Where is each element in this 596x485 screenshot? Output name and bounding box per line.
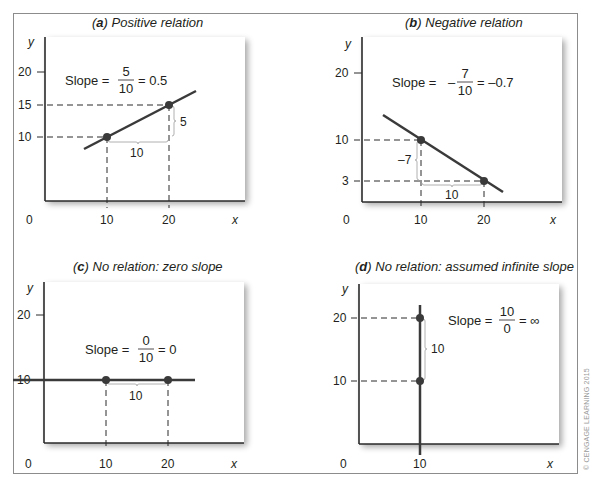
panel-a-title: (a) Positive relation bbox=[92, 15, 203, 30]
svg-text:Slope =: Slope = bbox=[392, 75, 436, 90]
svg-text:= 0: = 0 bbox=[158, 342, 176, 357]
panel-b-point-2 bbox=[480, 177, 488, 185]
panel-d-point-1 bbox=[416, 314, 424, 322]
panel-a-xtick-label: 10 bbox=[100, 213, 114, 227]
panel-a: (a) Positive relation y x 0 20 15 10 10 … bbox=[18, 15, 245, 227]
panel-a-origin: 0 bbox=[26, 213, 33, 227]
panel-c-ytick-label: 20 bbox=[17, 308, 31, 322]
panel-a-x-label: x bbox=[231, 213, 239, 227]
svg-text:10: 10 bbox=[119, 81, 133, 96]
panel-d-origin: 0 bbox=[340, 457, 347, 471]
panel-b-run-label: 10 bbox=[445, 188, 459, 202]
svg-text:Slope =: Slope = bbox=[448, 313, 492, 328]
panel-a-run-label: 10 bbox=[130, 146, 144, 160]
svg-text:0: 0 bbox=[503, 321, 510, 336]
panel-a-rise-label: 5 bbox=[180, 115, 187, 129]
panel-c-run-label: 10 bbox=[129, 389, 143, 403]
panel-a-plot-area bbox=[45, 37, 245, 201]
svg-text:Slope =: Slope = bbox=[65, 73, 109, 88]
svg-text:= 0.5: = 0.5 bbox=[138, 73, 167, 88]
panel-b: (b) Negative relation y x 0 20 10 3 10 2… bbox=[335, 15, 562, 227]
panel-a-point-2 bbox=[165, 101, 173, 109]
panel-c-point-2 bbox=[164, 376, 172, 384]
svg-text:5: 5 bbox=[122, 64, 129, 79]
svg-text:7: 7 bbox=[461, 66, 468, 81]
svg-text:10: 10 bbox=[500, 304, 514, 319]
panel-c-point-1 bbox=[102, 376, 110, 384]
panel-d-plot-area bbox=[359, 284, 559, 444]
panel-d-title: (d) No relation: assumed infinite slope bbox=[355, 259, 574, 274]
panel-c-xtick-label: 20 bbox=[161, 457, 175, 471]
slope-figure: (a) Positive relation y x 0 20 15 10 10 … bbox=[0, 0, 596, 485]
svg-text:= –0.7: = –0.7 bbox=[477, 75, 514, 90]
panel-c-origin: 0 bbox=[25, 457, 32, 471]
panel-b-ytick-label: 3 bbox=[342, 174, 349, 188]
panel-d-ytick-label: 20 bbox=[333, 311, 347, 325]
panel-b-xtick-label: 10 bbox=[414, 213, 428, 227]
panel-b-title: (b) Negative relation bbox=[405, 15, 523, 30]
panel-c-title: (c) No relation: zero slope bbox=[73, 259, 223, 274]
panel-c-x-label: x bbox=[230, 457, 238, 471]
panel-c: (c) No relation: zero slope y x 0 20 10 … bbox=[13, 259, 244, 471]
panel-b-ytick-label: 20 bbox=[335, 66, 349, 80]
panel-b-x-label: x bbox=[549, 213, 557, 227]
panel-a-y-label: y bbox=[27, 35, 35, 49]
panel-b-ytick-label: 10 bbox=[335, 133, 349, 147]
svg-text:10: 10 bbox=[458, 83, 472, 98]
panel-c-xtick-label: 10 bbox=[99, 457, 113, 471]
panel-a-point-1 bbox=[103, 133, 111, 141]
panel-d-ytick-label: 10 bbox=[333, 374, 347, 388]
panel-d: (d) No relation: assumed infinite slope … bbox=[333, 259, 574, 471]
panel-c-y-label: y bbox=[26, 281, 34, 295]
panel-b-rise-label: –7 bbox=[398, 153, 412, 167]
panel-a-ytick-label: 15 bbox=[18, 98, 32, 112]
panel-d-point-2 bbox=[416, 377, 424, 385]
panel-a-ytick-label: 10 bbox=[18, 130, 32, 144]
panel-b-y-label: y bbox=[344, 37, 352, 51]
svg-text:= ∞: = ∞ bbox=[519, 313, 539, 328]
panel-d-xtick-label: 10 bbox=[413, 457, 427, 471]
svg-text:0: 0 bbox=[142, 333, 149, 348]
panel-d-rise-label: 10 bbox=[431, 342, 445, 356]
panel-d-x-label: x bbox=[546, 457, 554, 471]
panel-a-xtick-label: 20 bbox=[162, 213, 176, 227]
panel-b-origin: 0 bbox=[343, 213, 350, 227]
panel-d-y-label: y bbox=[341, 282, 349, 296]
panel-a-ytick-label: 20 bbox=[18, 65, 32, 79]
svg-text:–: – bbox=[448, 75, 456, 90]
svg-text:Slope =: Slope = bbox=[85, 342, 129, 357]
panel-b-point-1 bbox=[417, 136, 425, 144]
svg-text:10: 10 bbox=[139, 350, 153, 365]
panel-b-xtick-label: 20 bbox=[477, 213, 491, 227]
copyright-text: © CENGAGE LEARNING 2015 bbox=[583, 368, 590, 470]
